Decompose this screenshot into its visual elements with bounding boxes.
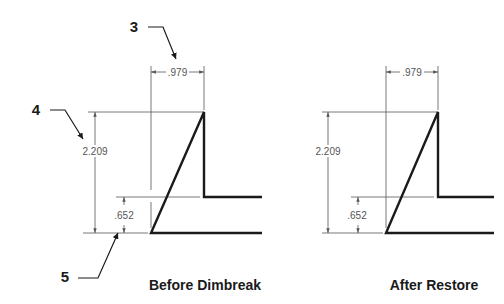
dimension-652-text: .652 [347,210,367,221]
callout-4-leader-arrow [50,110,83,139]
callout-3: 3 [130,18,176,59]
dimension-652-text: .652 [114,210,134,221]
callout-5: 5 [61,233,118,285]
callout-3-label: 3 [130,18,138,35]
caption-before-dimbreak: Before Dimbreak [149,277,261,293]
caption-after-restore: After Restore [390,277,479,293]
dimension-979-text: .979 [168,67,188,78]
callout-5-label: 5 [61,268,69,285]
callout-5-leader-arrow [78,233,118,278]
drawing-canvas: .979 2.209 .652 Before Dimbreak .979 2.2… [0,0,504,304]
callout-4: 4 [32,101,83,139]
callout-3-leader-arrow [148,27,176,59]
part-profile [151,112,262,233]
dimension-2209-text: 2.209 [82,146,107,157]
view-before-dimbreak: .979 2.209 .652 Before Dimbreak [82,66,262,293]
callout-4-label: 4 [32,101,41,118]
part-profile [386,112,494,233]
view-after-restore: .979 2.209 .652 After Restore [315,66,494,293]
dimension-979-text: .979 [402,67,422,78]
dimension-2209-text: 2.209 [315,146,340,157]
